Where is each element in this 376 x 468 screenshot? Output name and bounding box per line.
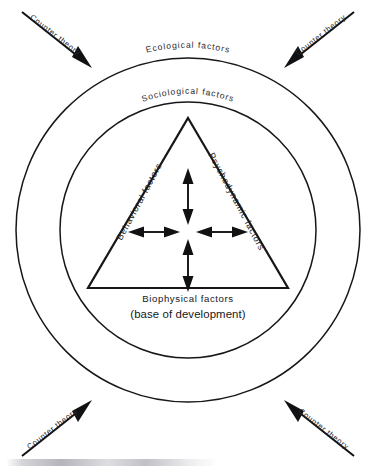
counter-theory-label-bottom-right: Counter theory: [297, 407, 351, 452]
counter-theory-label-top-left: Counter theory: [28, 13, 82, 58]
outer-ring-ecological: [16, 58, 360, 402]
ecological-model-diagram: Ecological factors Sociological factors …: [0, 0, 376, 468]
counter-theory-label-top-right: Counter theory: [294, 13, 348, 58]
center-arrow-down: [183, 239, 194, 292]
inner-ring-label: Sociological factors: [140, 86, 236, 104]
center-arrow-left: [128, 227, 180, 238]
diagram-root: Ecological factors Sociological factors …: [0, 0, 376, 468]
center-arrow-right: [196, 227, 248, 238]
counter-theory-label-bottom-left: Counter theory: [25, 407, 79, 452]
triangle-base-label: Biophysical factors: [142, 293, 233, 304]
triangle-right-edge-label: Psychodynamic factors: [206, 151, 266, 252]
outer-ring-label: Ecological factors: [145, 40, 232, 55]
triangle-base-sublabel: (base of development): [130, 308, 246, 320]
center-arrow-up: [183, 168, 194, 225]
